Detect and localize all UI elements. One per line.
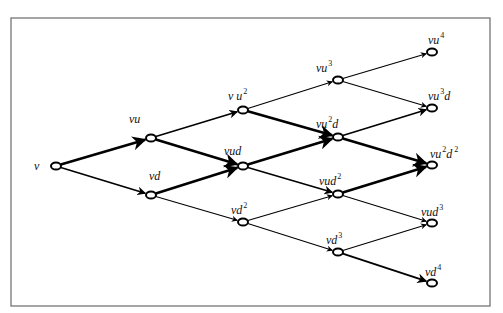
- node-label-vud2: vud2: [319, 172, 341, 188]
- node-vd3: [333, 248, 343, 255]
- edge-v-to-vu: [61, 140, 145, 165]
- edge-vd-to-vd2: [156, 196, 237, 220]
- edge-vu2d-to-vu2d2: [343, 138, 426, 163]
- node-label-vud: vud: [224, 144, 242, 158]
- node-vu3: [333, 76, 343, 83]
- node-vd: [146, 191, 156, 198]
- node-vu: [146, 134, 156, 141]
- node-label-vd3: vd3: [326, 231, 342, 247]
- node-vu2d2: [427, 161, 437, 168]
- edge-vud-to-vu2d: [248, 139, 332, 165]
- edge-vu-to-vu2: [156, 112, 237, 137]
- node-vu3d: [427, 104, 437, 111]
- node-label-vd4: vd4: [425, 263, 441, 279]
- edge-vud2-to-vud3: [343, 195, 426, 221]
- node-vu4: [427, 48, 437, 55]
- edge-vu3-to-vu4: [343, 54, 426, 79]
- node-label-vu3d: vu3d: [428, 87, 451, 103]
- node-label-vu: vu: [129, 112, 140, 126]
- edge-vd3-to-vd4: [343, 254, 427, 282]
- edge-vu2-to-vu3: [248, 82, 333, 109]
- edge-vd2-to-vud2: [248, 196, 332, 221]
- node-label-vu2d: vu2d: [316, 115, 339, 131]
- node-vud: [238, 162, 248, 169]
- edge-vd3-to-vud3: [343, 225, 426, 251]
- edge-v-to-vd: [61, 167, 145, 193]
- edge-vu3-to-vu3d: [343, 81, 426, 106]
- node-label-vu3: vu3: [316, 59, 332, 75]
- node-v: [51, 162, 61, 169]
- node-vu2d: [333, 133, 343, 140]
- node-label-vud3: vud3: [421, 203, 443, 219]
- node-vd4: [427, 279, 437, 286]
- node-vd2: [238, 218, 248, 225]
- nodes-layer: [51, 48, 437, 286]
- edge-vud2-to-vu2d2: [343, 167, 426, 193]
- node-label-v: v: [34, 159, 40, 173]
- node-vud3: [427, 219, 437, 226]
- node-label-vd2: vd2: [231, 201, 247, 217]
- edge-vd-to-vud: [156, 168, 238, 194]
- binomial-lattice-diagram: vvuvdv u2vudvd2vu3vu2dvud2vd3vu4vu3dvu2d…: [0, 0, 503, 313]
- edge-vd2-to-vd3: [248, 224, 333, 251]
- node-vu2: [238, 106, 248, 113]
- node-label-vu2: v u2: [228, 87, 247, 103]
- node-label-vd: vd: [149, 169, 161, 183]
- node-label-vu4: vu4: [428, 31, 444, 47]
- edge-vu2d-to-vu3d: [343, 110, 426, 136]
- node-vud2: [333, 190, 343, 197]
- node-label-vu2d2: vu2d2: [430, 145, 458, 161]
